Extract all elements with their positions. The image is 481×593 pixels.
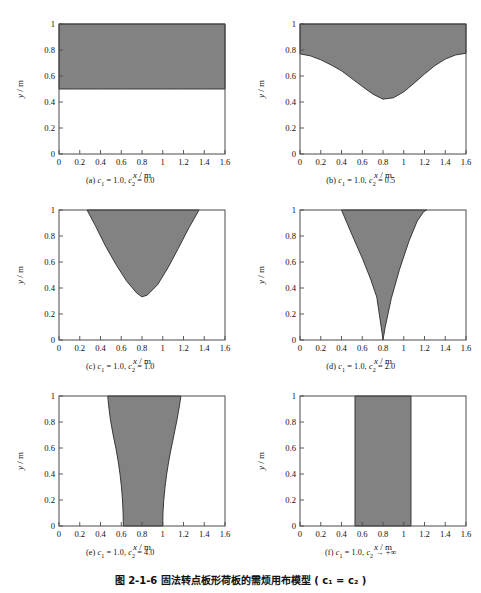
panel-caption-e: (e) c1 = 1.0, c2 = 4.0 — [86, 548, 155, 559]
figure-container: 00.20.40.60.811.21.41.600.20.40.60.81x /… — [0, 12, 481, 570]
coefficient-1: c1 = 1.0 — [97, 362, 123, 371]
panel-label-e: (e) — [86, 548, 98, 557]
coefficient-1: c1 = 1.0 — [338, 176, 364, 185]
plot-area-e: 00.20.40.60.811.21.41.600.20.40.60.81x /… — [7, 384, 233, 550]
y-axis-unit: / m — [256, 80, 266, 94]
coefficient-1: c1 = 1.0 — [97, 176, 123, 185]
x-tick-label-7: 1.4 — [199, 157, 210, 167]
x-tick-label-1: 0.2 — [75, 343, 86, 353]
x-tick-label-4: 0.8 — [377, 343, 388, 353]
x-tick-label-5: 1 — [401, 157, 405, 167]
x-tick-label-8: 1.6 — [220, 529, 231, 539]
y-tick-label-5: 1 — [291, 205, 295, 215]
x-tick-label-3: 0.6 — [116, 343, 127, 353]
y-axis-label-e: y / m — [15, 452, 25, 471]
coefficient-value-1: 1.0 — [354, 176, 365, 185]
y-tick-label-2: 0.4 — [285, 283, 296, 293]
y-axis-unit: / m — [256, 266, 266, 280]
coefficient-value-2: 0.0 — [144, 176, 155, 185]
x-tick-label-6: 1.2 — [419, 343, 430, 353]
y-tick-label-3: 0.6 — [45, 443, 56, 453]
coefficient-value-2: 1.0 — [144, 362, 155, 371]
x-tick-label-5: 1 — [401, 343, 405, 353]
plot-area-f: 00.20.40.60.811.21.41.600.20.40.60.81x /… — [248, 384, 474, 550]
plot-area-d: 00.20.40.60.811.21.41.600.20.40.60.81x /… — [248, 198, 474, 364]
y-tick-label-1: 0.2 — [45, 309, 56, 319]
x-tick-label-6: 1.2 — [178, 157, 189, 167]
panel-caption-d: (d) c1 = 1.0, c2 = 2.0 — [326, 362, 395, 373]
y-tick-label-5: 1 — [51, 205, 55, 215]
plot-svg-d: 00.20.40.60.811.21.41.600.20.40.60.81x /… — [248, 198, 474, 364]
y-axis-label-f: y / m — [256, 452, 266, 471]
x-tick-label-7: 1.4 — [440, 157, 451, 167]
y-tick-label-5: 1 — [291, 19, 295, 29]
panel-label-b: (b) — [326, 176, 338, 185]
plot-svg-a: 00.20.40.60.811.21.41.600.20.40.60.81x /… — [7, 12, 233, 178]
coefficient-value-2: 0.5 — [385, 176, 396, 185]
y-tick-label-3: 0.6 — [285, 257, 296, 267]
y-tick-label-1: 0.2 — [285, 495, 296, 505]
shaded-region-e — [108, 396, 181, 526]
y-axis-label-c: y / m — [15, 266, 25, 285]
coefficient-value-1: 1.0 — [113, 362, 124, 371]
shaded-region-c — [87, 210, 199, 297]
y-tick-label-2: 0.4 — [285, 97, 296, 107]
panel-caption-f: (f) c1 = 1.0, c2 → +∞ — [325, 548, 396, 559]
y-tick-label-0: 0 — [291, 521, 295, 531]
panel-label-c: (c) — [86, 362, 98, 371]
y-axis-unit: / m — [15, 266, 25, 280]
x-tick-label-0: 0 — [298, 157, 302, 167]
y-tick-label-4: 0.8 — [285, 231, 296, 241]
chart-panel-e: 00.20.40.60.811.21.41.600.20.40.60.81x /… — [0, 384, 241, 570]
y-axis-unit: / m — [15, 80, 25, 94]
x-tick-label-5: 1 — [161, 343, 165, 353]
figure-caption-number: 图 2-1-6 — [115, 575, 158, 586]
y-tick-label-1: 0.2 — [285, 309, 296, 319]
y-axis-label-b: y / m — [256, 80, 266, 99]
x-tick-label-3: 0.6 — [357, 343, 368, 353]
x-tick-label-0: 0 — [57, 343, 61, 353]
y-axis-label-a: y / m — [15, 80, 25, 99]
x-tick-label-6: 1.2 — [419, 529, 430, 539]
y-tick-label-0: 0 — [291, 335, 295, 345]
coefficient-1: c1 = 1.0 — [338, 362, 364, 371]
y-tick-label-0: 0 — [291, 149, 295, 159]
y-tick-label-2: 0.4 — [285, 469, 296, 479]
shaded-region-a — [59, 24, 225, 89]
x-tick-label-7: 1.4 — [440, 343, 451, 353]
y-tick-label-4: 0.8 — [285, 45, 296, 55]
x-tick-label-3: 0.6 — [116, 529, 127, 539]
x-tick-label-3: 0.6 — [357, 157, 368, 167]
coefficient-value-1: 1.0 — [354, 362, 365, 371]
y-axis-unit: / m — [15, 452, 25, 466]
x-tick-label-3: 0.6 — [116, 157, 127, 167]
shaded-region-f — [355, 396, 411, 526]
x-tick-label-1: 0.2 — [75, 157, 86, 167]
x-tick-label-4: 0.8 — [377, 157, 388, 167]
y-tick-label-4: 0.8 — [45, 231, 56, 241]
y-tick-label-2: 0.4 — [45, 283, 56, 293]
x-tick-label-4: 0.8 — [377, 529, 388, 539]
x-tick-label-6: 1.2 — [178, 529, 189, 539]
coefficient-value-1: 1.0 — [352, 548, 363, 557]
plot-area-a: 00.20.40.60.811.21.41.600.20.40.60.81x /… — [7, 12, 233, 178]
x-tick-label-5: 1 — [401, 529, 405, 539]
x-tick-label-7: 1.4 — [199, 343, 210, 353]
x-tick-label-5: 1 — [161, 157, 165, 167]
coefficient-2: c2 = 0.0 — [128, 176, 154, 185]
coefficient-1: c1 = 1.0 — [97, 548, 123, 557]
y-tick-label-4: 0.8 — [45, 417, 56, 427]
x-tick-label-2: 0.4 — [336, 529, 347, 539]
shaded-region-d — [341, 210, 426, 340]
coefficient-value-2: 2.0 — [385, 362, 396, 371]
coefficient-2: c2 = 0.5 — [369, 176, 395, 185]
panel-caption-a: (a) c1 = 1.0, c2 = 0.0 — [86, 176, 155, 187]
x-tick-label-2: 0.4 — [95, 529, 106, 539]
coefficient-value-2: +∞ — [386, 548, 397, 557]
x-tick-label-6: 1.2 — [178, 343, 189, 353]
x-tick-label-7: 1.4 — [440, 529, 451, 539]
y-tick-label-0: 0 — [51, 521, 55, 531]
panel-caption-c: (c) c1 = 1.0, c2 = 1.0 — [86, 362, 155, 373]
panel-grid: 00.20.40.60.811.21.41.600.20.40.60.81x /… — [0, 12, 481, 570]
y-tick-label-5: 1 — [291, 391, 295, 401]
